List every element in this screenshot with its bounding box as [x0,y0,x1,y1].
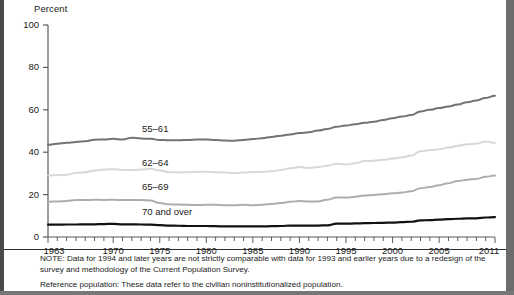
series-line-62-64 [48,142,495,176]
series-line-65-69 [48,176,495,206]
y-tick-label-0: 0 [9,231,39,242]
chart-axes [43,25,495,243]
y-tick-label-20: 20 [9,189,39,200]
note-line-reference-population: Reference population: These data refer t… [40,280,496,291]
series-label-65-69: 65–69 [142,181,168,192]
series-line-70-and-over [48,217,495,226]
series-label-62-64: 62–64 [142,157,168,168]
note-separator-rule [4,249,506,250]
y-tick-label-40: 40 [9,146,39,157]
chart-screenshot: Percent 020406080100 1963197019751980198… [0,0,514,295]
y-tick-label-60: 60 [9,104,39,115]
y-tick-label-100: 100 [9,19,39,30]
series-label-70-and-over: 70 and over [142,206,192,217]
note-line-methodology: NOTE: Data for 1994 and later years are … [40,254,496,275]
chart-series [48,96,495,227]
y-tick-label-80: 80 [9,61,39,72]
chart-notes: NOTE: Data for 1994 and later years are … [40,254,496,291]
series-line-55-61 [48,96,495,145]
series-label-55-61: 55–61 [142,123,168,134]
chart-plot-region: Percent 020406080100 1963197019751980198… [4,0,506,295]
